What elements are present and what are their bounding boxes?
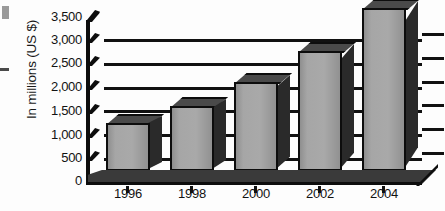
scan-artifact	[2, 6, 9, 19]
bar-front-face	[362, 8, 406, 171]
bar-2000	[234, 82, 278, 171]
right-axis-tick	[422, 33, 444, 36]
y-tick-label: 3,500	[30, 9, 82, 24]
y-tick-label: 2,500	[30, 55, 82, 70]
bar-2002	[298, 51, 342, 171]
bar-1998	[170, 106, 214, 171]
x-tick-label: 1996	[98, 186, 158, 201]
bar-side-face	[148, 116, 162, 169]
right-axis-tick	[422, 57, 444, 60]
x-tick-label: 2004	[354, 186, 414, 201]
bar-2004	[362, 8, 406, 171]
bar-side-face	[276, 75, 290, 169]
bar-front-face	[234, 82, 278, 171]
bar-1996	[106, 123, 150, 171]
y-tick-label: 2,000	[30, 79, 82, 94]
x-tick-label: 2000	[226, 186, 286, 201]
x-tick-label: 2002	[290, 186, 350, 201]
scan-artifact	[0, 68, 9, 71]
bar-chart: In millions (US $) 3,500 3,000 2,500 2,0…	[0, 0, 445, 211]
y-tick-label: 1,000	[30, 127, 82, 142]
plot-area	[86, 6, 436, 186]
y-axis-tick-labels: 3,500 3,000 2,500 2,000 1,500 1,000 500 …	[30, 0, 82, 211]
right-axis-tick	[422, 128, 444, 131]
bar-front-face	[170, 106, 214, 171]
bar-front-face	[106, 123, 150, 171]
right-axis-tick	[422, 104, 444, 107]
x-axis-line	[86, 182, 422, 185]
x-axis-tick-labels: 1996 1998 2000 2002 2004	[86, 186, 436, 211]
bar-front-face	[298, 51, 342, 171]
bar-side-face	[340, 44, 354, 169]
bar-side-face	[404, 1, 418, 169]
y-tick-label: 3,000	[30, 32, 82, 47]
y-tick-label: 0	[30, 173, 82, 188]
right-axis-tick	[422, 81, 444, 84]
bar-side-face	[212, 99, 226, 169]
y-tick-label: 1,500	[30, 103, 82, 118]
x-tick-label: 1998	[162, 186, 222, 201]
y-tick-label: 500	[30, 150, 82, 165]
right-axis-tick	[422, 152, 444, 155]
